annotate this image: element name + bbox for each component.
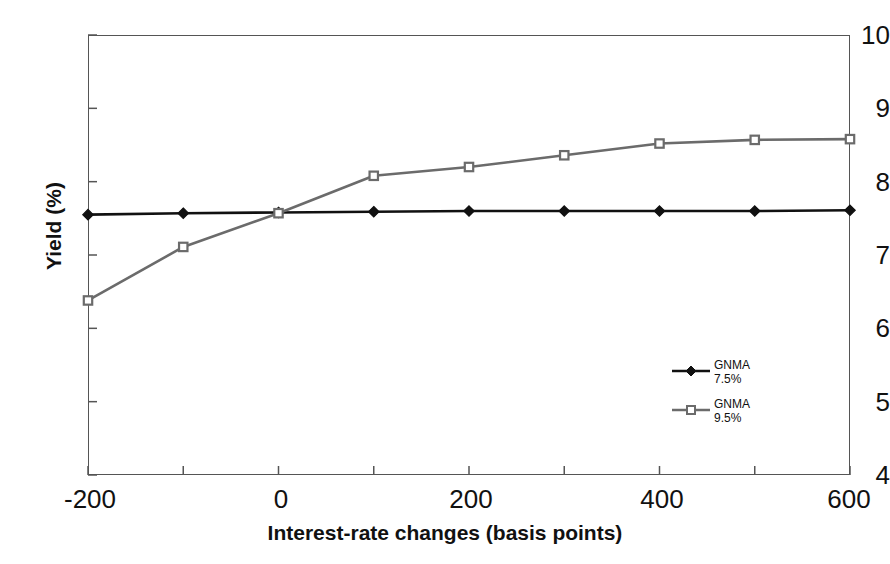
legend-marker-diamond-icon — [672, 365, 710, 377]
data-series-layer — [83, 135, 855, 305]
legend-entry-gnma-95[interactable]: GNMA9.5% — [672, 399, 792, 429]
chart-svg — [0, 0, 890, 564]
chart-legend: GNMA7.5% GNMA9.5% — [672, 360, 792, 438]
legend-entry-gnma-75[interactable]: GNMA7.5% — [672, 360, 792, 390]
legend-label-gnma-95-line2: 9.5% — [714, 411, 741, 425]
legend-label-gnma-95: GNMA9.5% — [714, 397, 750, 425]
yield-line-chart: 10 9 8 7 6 5 4 Yield (%) -200 0 200 400 … — [0, 0, 890, 564]
legend-label-gnma-75-line2: 7.5% — [714, 372, 741, 386]
legend-marker-square-icon — [672, 404, 710, 416]
legend-label-gnma-75: GNMA7.5% — [714, 358, 750, 386]
legend-label-gnma-75-line1: GNMA — [714, 358, 750, 372]
legend-label-gnma-95-line1: GNMA — [714, 397, 750, 411]
